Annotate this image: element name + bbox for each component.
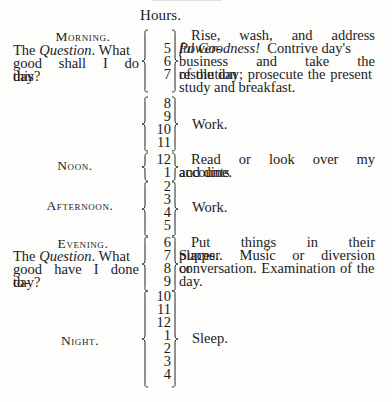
right-brace-afternoon: [171, 181, 179, 237]
period-label-noon: Noon.: [40, 158, 110, 174]
page-top-edge: [152, 0, 222, 1]
hours-column-header: Hours.: [140, 7, 181, 24]
right-brace-night: [171, 290, 179, 388]
right-brace-evening: [171, 236, 179, 292]
period-label-night: Night.: [40, 333, 120, 349]
hour-5-pm: 5: [147, 219, 171, 232]
hour-9-pm: 9: [147, 275, 171, 288]
activity-sleep: Sleep.: [192, 330, 228, 347]
right-brace-noon: [171, 152, 179, 182]
activity-work-morning: Work.: [192, 116, 227, 133]
right-brace-work-am: [171, 96, 179, 152]
right-brace-morning: [171, 29, 179, 93]
activity-work-afternoon: Work.: [192, 199, 227, 216]
period-label-afternoon: Afternoon.: [30, 198, 130, 214]
hour-7: 7: [147, 68, 171, 81]
hour-11: 11: [147, 136, 171, 149]
hour-4-am: 4: [147, 368, 171, 381]
